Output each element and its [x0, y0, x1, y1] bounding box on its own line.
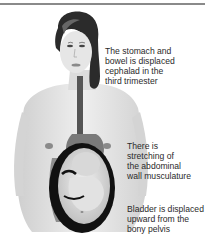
caption-line: bony pelvis	[127, 224, 204, 234]
caption-abdominal-wall: There is stretching of the abdominal wal…	[127, 141, 191, 181]
caption-line: third trimester	[105, 76, 175, 86]
uterus-with-fetus	[49, 143, 115, 233]
caption-line: upward from the	[127, 214, 204, 224]
caption-line: bowel is displaced	[105, 56, 175, 66]
navel	[81, 211, 84, 213]
caption-line: the abdominal	[127, 161, 191, 171]
caption-line: stretching of	[127, 151, 191, 161]
caption-line: Bladder is displaced	[127, 204, 204, 214]
caption-line: cephalad in the	[105, 66, 175, 76]
caption-bladder: Bladder is displaced upward from the bon…	[127, 204, 204, 234]
caption-line: There is	[127, 141, 191, 151]
left-nipple	[45, 143, 53, 149]
right-nipple	[103, 143, 111, 149]
face	[60, 31, 92, 73]
caption-stomach: The stomach and bowel is displaced cepha…	[105, 46, 175, 86]
caption-line: The stomach and	[105, 46, 175, 56]
caption-line: wall musculature	[127, 171, 191, 181]
